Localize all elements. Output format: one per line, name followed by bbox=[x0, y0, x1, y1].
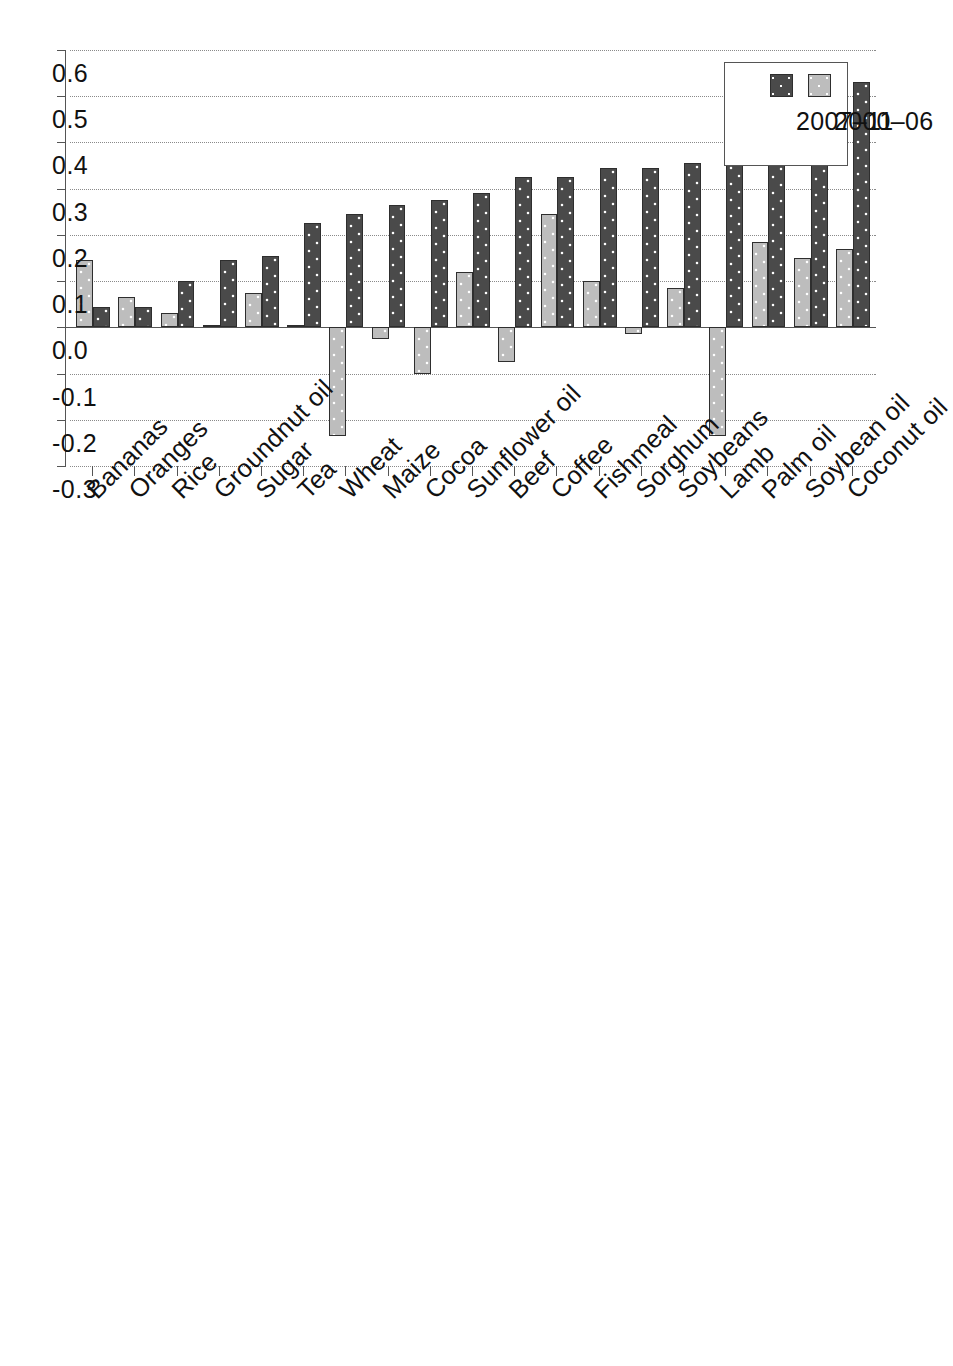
bar bbox=[794, 258, 811, 327]
bar bbox=[372, 327, 389, 339]
bar bbox=[287, 325, 304, 327]
gridline bbox=[70, 374, 876, 375]
axis-tick bbox=[57, 235, 66, 236]
axis-tick-label: -0.1 bbox=[52, 383, 97, 412]
bar bbox=[118, 297, 135, 327]
legend-swatch bbox=[770, 74, 793, 97]
axis-tick bbox=[57, 189, 66, 190]
axis-tick-label: 0.4 bbox=[52, 151, 88, 180]
zero-line bbox=[66, 327, 876, 328]
bar bbox=[642, 168, 659, 327]
axis-tick bbox=[57, 96, 66, 97]
bar bbox=[245, 293, 262, 328]
axis-tick bbox=[57, 374, 66, 375]
bar bbox=[431, 200, 448, 327]
bar bbox=[161, 313, 178, 327]
legend-swatch bbox=[808, 74, 831, 97]
legend: 2000–062007–11 bbox=[724, 62, 848, 166]
bar bbox=[346, 214, 363, 327]
gridline bbox=[70, 50, 876, 51]
bar bbox=[389, 205, 406, 327]
axis-tick-label: 0.0 bbox=[52, 336, 88, 365]
axis-tick bbox=[57, 142, 66, 143]
bar bbox=[135, 307, 152, 328]
axis-tick-label: 0.1 bbox=[52, 290, 88, 319]
axis-tick bbox=[57, 281, 66, 282]
axis-tick bbox=[57, 327, 66, 328]
axis-tick-label: 0.2 bbox=[52, 244, 88, 273]
axis-tick-label: -0.2 bbox=[52, 429, 97, 458]
bar bbox=[178, 281, 195, 327]
bar bbox=[414, 327, 431, 373]
axis-tick bbox=[57, 420, 66, 421]
bar bbox=[93, 307, 110, 328]
bar bbox=[262, 256, 279, 328]
bar bbox=[625, 327, 642, 334]
bar bbox=[220, 260, 237, 327]
bar bbox=[473, 193, 490, 327]
bar bbox=[515, 177, 532, 327]
axis-tick bbox=[57, 466, 66, 467]
bar bbox=[203, 325, 220, 327]
bar bbox=[541, 214, 558, 327]
legend-label: 2007–11 bbox=[796, 107, 894, 136]
bar bbox=[557, 177, 574, 327]
bar bbox=[836, 249, 853, 328]
bar bbox=[304, 223, 321, 327]
axis-tick-label: 0.6 bbox=[52, 59, 88, 88]
bar bbox=[752, 242, 769, 328]
bar bbox=[456, 272, 473, 327]
bar bbox=[667, 288, 684, 327]
bar bbox=[600, 168, 617, 327]
bar bbox=[583, 281, 600, 327]
bar bbox=[498, 327, 515, 362]
bar bbox=[684, 163, 701, 327]
bar bbox=[330, 327, 347, 436]
axis-tick bbox=[57, 50, 66, 51]
axis-tick-label: 0.5 bbox=[52, 105, 88, 134]
bar bbox=[726, 140, 743, 327]
gridline bbox=[70, 189, 876, 190]
axis-tick-label: 0.3 bbox=[52, 198, 88, 227]
